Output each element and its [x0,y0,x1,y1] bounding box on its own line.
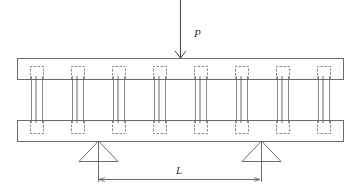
bottom-beam [18,121,344,142]
load-arrow-icon [175,0,186,58]
shear-connector [277,67,290,134]
shear-connector [72,67,85,134]
load-label: P [194,28,201,39]
shear-connector [236,67,249,134]
shear-connector [195,67,208,134]
shear-connectors [31,67,331,134]
left-support-icon [79,141,118,182]
shear-connector [318,67,331,134]
shear-connector [31,67,44,134]
shear-connector [113,67,126,134]
span-label: L [176,165,182,176]
span-dimension-line [99,178,260,182]
right-support-icon [242,141,281,182]
beams [18,59,344,142]
top-beam [18,59,344,80]
shear-connector [154,67,167,134]
